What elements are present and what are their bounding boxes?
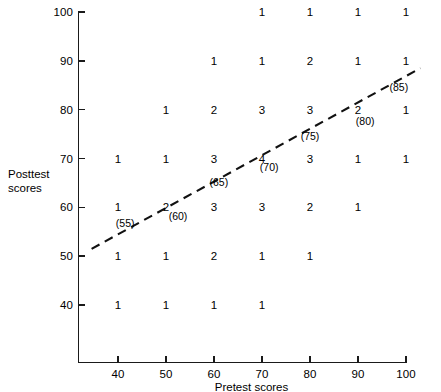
y-tick-100 [78,11,85,12]
data-count-60-90: 1 [206,55,222,67]
x-tick-label-90: 90 [343,368,373,380]
data-count-80-50: 1 [302,250,318,262]
predicted-label-60: (60) [161,211,195,222]
y-tick-label-70: 70 [47,153,73,165]
predicted-label-70: (70) [252,162,286,173]
x-tick-50 [165,356,166,363]
data-count-90-70: 1 [350,153,366,165]
y-tick-90 [78,60,85,61]
predicted-label-75: (75) [293,131,327,142]
x-tick-label-80: 80 [295,368,325,380]
data-count-60-80: 2 [206,104,222,116]
y-axis-line [78,12,79,363]
data-count-70-80: 3 [254,104,270,116]
data-count-50-50: 1 [158,250,174,262]
data-count-70-40: 1 [254,299,270,311]
predicted-label-80: (80) [348,116,382,127]
y-tick-label-40: 40 [47,299,73,311]
y-tick-70 [78,158,85,159]
data-count-100-80: 1 [398,104,414,116]
x-tick-label-100: 100 [391,368,421,380]
x-tick-80 [309,356,310,363]
y-tick-label-80: 80 [47,104,73,116]
data-count-60-40: 1 [206,299,222,311]
predicted-label-85: (85) [382,82,416,93]
y-tick-40 [78,304,85,305]
predicted-label-65: (65) [202,177,236,188]
data-count-80-100: 1 [302,6,318,18]
x-axis-title-text: Pretest scores [215,381,289,392]
data-count-100-90: 1 [398,55,414,67]
data-count-70-60: 3 [254,201,270,213]
y-tick-label-100: 100 [47,6,73,18]
data-count-60-60: 3 [206,201,222,213]
x-tick-70 [261,356,262,363]
y-axis-title-line2: scores [8,181,72,195]
data-count-80-60: 2 [302,201,318,213]
x-tick-60 [213,356,214,363]
x-tick-label-40: 40 [103,368,133,380]
y-tick-label-50: 50 [47,250,73,262]
x-tick-label-60: 60 [199,368,229,380]
data-count-40-50: 1 [110,250,126,262]
data-count-70-50: 1 [254,250,270,262]
data-count-100-70: 1 [398,153,414,165]
data-count-40-60: 1 [110,201,126,213]
data-count-60-70: 3 [206,153,222,165]
y-tick-60 [78,207,85,208]
data-count-80-90: 2 [302,55,318,67]
data-count-90-100: 1 [350,6,366,18]
y-axis-title-line1: Posttest [8,167,72,181]
data-count-50-70: 1 [158,153,174,165]
x-tick-label-50: 50 [151,368,181,380]
data-count-100-100: 1 [398,6,414,18]
y-tick-label-60: 60 [47,201,73,213]
data-count-80-80: 3 [302,104,318,116]
y-tick-label-90: 90 [47,55,73,67]
data-count-90-60: 1 [350,201,366,213]
x-tick-100 [405,356,406,363]
data-count-90-90: 1 [350,55,366,67]
x-tick-label-70: 70 [247,368,277,380]
data-count-50-80: 1 [158,104,174,116]
data-count-40-70: 1 [110,153,126,165]
y-tick-50 [78,255,85,256]
y-axis-title: Posttest scores [8,167,72,195]
scatter-plot-figure: 405060708090100 405060708090100 11111121… [0,0,441,392]
x-tick-40 [117,356,118,363]
y-tick-80 [78,109,85,110]
data-count-70-90: 1 [254,55,270,67]
data-count-70-100: 1 [254,6,270,18]
x-axis-title: Pretest scores [0,381,441,392]
x-tick-90 [357,356,358,363]
data-count-60-50: 2 [206,250,222,262]
data-count-40-40: 1 [110,299,126,311]
data-count-80-70: 3 [302,153,318,165]
predicted-label-55: (55) [108,218,142,229]
data-count-50-40: 1 [158,299,174,311]
data-count-90-80: 2 [350,104,366,116]
